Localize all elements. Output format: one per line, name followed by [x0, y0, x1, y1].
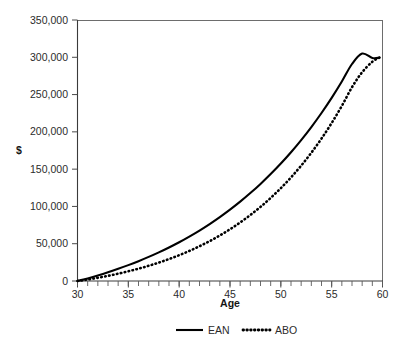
legend-label-abo: ABO [275, 324, 297, 336]
y-tick-label: 300,000 [30, 51, 68, 63]
y-tick-label: 0 [62, 275, 68, 287]
y-tick-label: 250,000 [30, 88, 68, 100]
x-tick-label: 30 [72, 288, 84, 300]
x-tick-label: 55 [326, 288, 338, 300]
x-tick-label: 40 [173, 288, 185, 300]
y-tick-label: 200,000 [30, 125, 68, 137]
y-axis-title: $ [16, 144, 22, 156]
y-tick-label: 50,000 [36, 237, 68, 249]
y-tick-label: 150,000 [30, 163, 68, 175]
x-tick-label: 35 [122, 288, 134, 300]
x-tick-label: 50 [275, 288, 287, 300]
line-chart: 050,000100,000150,000200,000250,000300,0… [0, 0, 409, 351]
legend-label-ean: EAN [208, 324, 230, 336]
y-tick-label: 350,000 [30, 14, 68, 26]
x-axis-title: Age [220, 297, 240, 309]
y-tick-label: 100,000 [30, 200, 68, 212]
chart-container: 050,000100,000150,000200,000250,000300,0… [0, 0, 409, 351]
x-tick-label: 60 [377, 288, 389, 300]
